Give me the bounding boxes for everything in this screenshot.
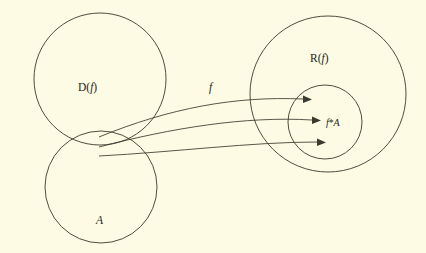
map-arrow-middle-head — [312, 116, 321, 124]
subset-label: A — [95, 214, 104, 226]
map-arrow-bottom — [99, 142, 317, 156]
map-label: f — [209, 81, 214, 94]
image-circle — [288, 85, 362, 159]
domain-label-paren-close: ) — [93, 81, 97, 94]
domain-circle — [34, 13, 166, 145]
subset-circle — [45, 131, 157, 243]
map-arrow-bottom-head — [317, 138, 326, 146]
set-mapping-diagram: D(f) R(f) A f*A f — [0, 0, 426, 253]
image-label-set: A — [333, 117, 341, 128]
figure-canvas: D(f) R(f) A f*A f — [0, 0, 426, 253]
range-label: R(f) — [310, 52, 329, 65]
range-label-paren-close: ) — [325, 52, 329, 65]
domain-label-roman: D — [78, 81, 86, 93]
map-arrow-top-head — [303, 95, 312, 103]
range-circle — [250, 16, 406, 172]
image-label: f*A — [326, 117, 341, 128]
map-arrow-top — [99, 99, 303, 137]
domain-label: D(f) — [78, 81, 97, 94]
